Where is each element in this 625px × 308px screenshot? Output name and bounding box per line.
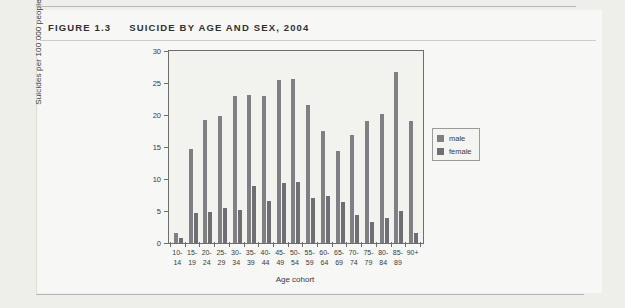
chart-legend: male female <box>432 128 480 161</box>
bar-group <box>362 51 377 243</box>
x-axis-ticks <box>168 242 424 247</box>
bar-female <box>223 208 227 243</box>
legend-label-male: male <box>449 134 465 143</box>
bar-female <box>267 201 271 243</box>
bar-female <box>194 213 198 243</box>
bar-male <box>203 120 207 243</box>
bar-group <box>392 51 407 243</box>
y-tick-label: 15 <box>153 143 161 152</box>
bar-group <box>333 51 348 243</box>
chart: Suicides per 100 000 people 051015202530… <box>40 42 560 290</box>
bar-female <box>208 212 212 243</box>
x-tick-label: 85-89 <box>391 248 406 274</box>
figure-page: FIGURE 1.3 SUICIDE BY AGE AND SEX, 2004 … <box>0 0 625 308</box>
y-tick-label: 5 <box>157 207 161 216</box>
bar-female <box>326 196 330 243</box>
x-tick <box>258 242 259 247</box>
bar-group <box>200 51 215 243</box>
bar-male <box>365 121 369 243</box>
bar-male <box>218 116 222 243</box>
bar-male <box>394 72 398 243</box>
legend-item-male: male <box>437 133 472 143</box>
x-tick <box>170 242 171 247</box>
bar-male <box>409 121 413 243</box>
bar-group <box>347 51 362 243</box>
x-tick <box>244 242 245 247</box>
caption-divider <box>40 40 596 41</box>
x-tick-label: 50-54 <box>288 248 303 274</box>
legend-item-female: female <box>437 146 472 156</box>
bar-female <box>355 215 359 243</box>
bar-female <box>370 222 374 243</box>
bar-group <box>186 51 201 243</box>
bar-group <box>171 51 186 243</box>
bar-group <box>406 51 421 243</box>
x-tick <box>346 242 347 247</box>
bar-group <box>215 51 230 243</box>
bar-female <box>385 218 389 243</box>
bar-female <box>399 211 403 243</box>
y-tick-label: 10 <box>153 175 161 184</box>
x-tick <box>376 242 377 247</box>
x-tick-label: 35-39 <box>244 248 259 274</box>
y-tick-label: 30 <box>153 47 161 56</box>
bar-group <box>245 51 260 243</box>
bar-male <box>350 135 354 243</box>
x-tick-label: 45-49 <box>273 248 288 274</box>
bar-group <box>377 51 392 243</box>
x-tick-label: 40-44 <box>258 248 273 274</box>
figure-number: FIGURE 1.3 <box>48 22 111 33</box>
page-rule-top <box>36 6 576 7</box>
x-tick <box>229 242 230 247</box>
bar-male <box>306 105 310 243</box>
bar-series-container <box>169 51 423 243</box>
bar-female <box>296 182 300 243</box>
x-tick <box>317 242 318 247</box>
x-tick-label: 65-69 <box>332 248 347 274</box>
x-tick <box>199 242 200 247</box>
x-tick <box>302 242 303 247</box>
bar-male <box>380 114 384 243</box>
x-axis-labels: 10-1415-1920-2425-2930-3435-3940-4445-49… <box>168 248 422 274</box>
y-tick-label: 25 <box>153 79 161 88</box>
bar-group <box>259 51 274 243</box>
x-tick <box>273 242 274 247</box>
x-tick <box>391 242 392 247</box>
x-tick-label: 75-79 <box>361 248 376 274</box>
figure-caption: FIGURE 1.3 SUICIDE BY AGE AND SEX, 2004 <box>48 16 568 38</box>
x-tick-label: 70-74 <box>346 248 361 274</box>
bar-group <box>318 51 333 243</box>
y-axis-title: Suicides per 100 000 people <box>34 0 43 122</box>
figure-title: SUICIDE BY AGE AND SEX, 2004 <box>129 22 309 33</box>
x-tick <box>405 242 406 247</box>
bar-male <box>233 96 237 243</box>
bar-female <box>252 186 256 243</box>
page-rule-bottom <box>36 294 584 295</box>
x-tick <box>185 242 186 247</box>
x-tick-label: 60-64 <box>317 248 332 274</box>
bar-male <box>291 79 295 243</box>
bar-female <box>341 202 345 243</box>
x-tick-label: 25-29 <box>214 248 229 274</box>
bar-female <box>282 183 286 243</box>
x-tick-label: 90+ <box>405 248 420 274</box>
legend-swatch-female-icon <box>437 148 444 155</box>
x-tick-label: 55-59 <box>302 248 317 274</box>
x-tick <box>332 242 333 247</box>
bar-group <box>303 51 318 243</box>
bar-male <box>277 80 281 243</box>
bar-male <box>189 149 193 243</box>
y-tick-label: 20 <box>153 111 161 120</box>
legend-swatch-male-icon <box>437 135 444 142</box>
x-tick <box>214 242 215 247</box>
legend-label-female: female <box>449 147 472 156</box>
bar-group <box>230 51 245 243</box>
x-tick <box>288 242 289 247</box>
x-tick-label: 80-84 <box>376 248 391 274</box>
plot-area: 051015202530 <box>168 50 424 244</box>
x-tick <box>420 242 421 247</box>
bar-group <box>274 51 289 243</box>
bar-male <box>321 131 325 243</box>
bar-female <box>311 198 315 243</box>
bar-male <box>336 151 340 243</box>
